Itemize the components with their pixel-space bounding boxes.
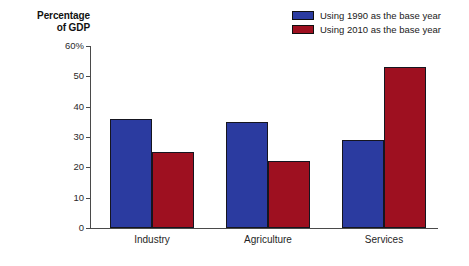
y-tick-label: 40 [73,101,84,112]
legend-swatch-blue [292,11,314,20]
y-tick-mark [86,137,91,138]
bar [342,140,384,228]
y-tick-label: 60% [65,40,84,51]
y-tick-mark [86,167,91,168]
y-tick-label: 10 [73,192,84,203]
y-tick-mark [86,46,91,47]
x-axis-label: Agriculture [244,234,292,245]
y-tick-mark [86,107,91,108]
legend-label-1990: Using 1990 as the base year [320,10,441,21]
y-tick-mark [86,198,91,199]
y-tick-label: 20 [73,161,84,172]
y-tick-label: 30 [73,131,84,142]
bar [268,161,310,228]
y-axis-title: Percentageof GDP [4,10,90,34]
x-axis-label: Industry [134,234,170,245]
y-tick-mark [86,76,91,77]
y-axis-title-line2: of GDP [57,22,90,33]
legend-label-2010: Using 2010 as the base year [320,24,441,35]
bar [384,67,426,228]
legend-swatch-red [292,25,314,34]
bar [152,152,194,228]
bar [110,119,152,228]
plot-area: 0102030405060% IndustryAgricultureServic… [90,46,438,229]
x-axis-line [90,228,438,229]
legend-item-2010: Using 2010 as the base year [292,23,467,35]
legend-item-1990: Using 1990 as the base year [292,9,467,21]
bar [226,122,268,228]
y-tick-label: 0 [79,222,84,233]
y-tick-label: 50 [73,70,84,81]
x-axis-label: Services [365,234,403,245]
chart-legend: Using 1990 as the base year Using 2010 a… [292,9,467,37]
bar-chart: Percentageof GDP Using 1990 as the base … [0,0,469,266]
y-axis-title-line1: Percentage [37,10,90,21]
y-tick-mark [86,228,91,229]
